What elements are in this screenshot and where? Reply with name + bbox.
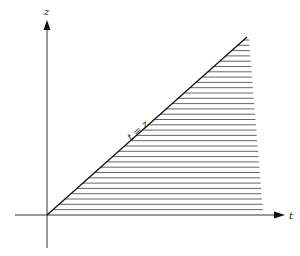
diagram-canvas: z t t = z	[0, 0, 300, 256]
z-axis-arrow-icon	[44, 20, 51, 30]
z-axis-label: z	[43, 6, 50, 17]
t-axis-label: t	[289, 210, 294, 221]
hatched-region	[53, 40, 263, 210]
t-axis-arrow-icon	[274, 212, 285, 219]
